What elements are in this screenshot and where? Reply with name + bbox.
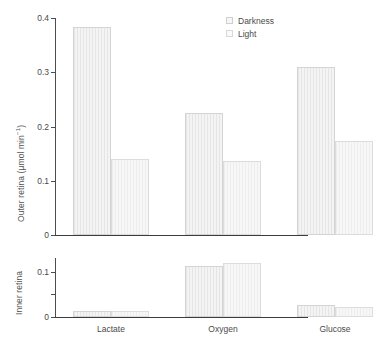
bar-outer-retina-glucose-darkness [297,67,335,235]
category-label-glucose: Glucose [319,324,350,334]
legend-label-light: Light [238,29,256,39]
inner-retina-y-axis [55,258,56,318]
inner-retina-tick-0 [51,317,55,318]
legend-item-light: Light [226,27,274,40]
category-label-oxygen: Oxygen [208,324,237,334]
bar-outer-retina-oxygen-light [223,161,261,235]
outer-retina-panel: 00.10.20.30.4 [55,18,308,236]
legend: DarknessLight [226,14,274,40]
legend-item-darkness: Darkness [226,14,274,27]
outer-retina-tick-label-1: 0.1 [37,176,49,186]
outer-retina-axis-label-tail: ) [16,125,26,128]
outer-retina-x-axis [55,235,308,236]
outer-retina-tick-0 [51,235,55,236]
bar-inner-retina-glucose-light [335,307,373,317]
bar-inner-retina-lactate-darkness [73,311,111,317]
bar-inner-retina-oxygen-light [223,263,261,317]
outer-retina-tick-label-3: 0.3 [37,67,49,77]
inner-retina-panel: 00.1 [55,258,308,318]
bar-inner-retina-oxygen-darkness [185,266,223,317]
inner-retina-plot-area: 00.1 [55,258,308,318]
outer-retina-y-axis [55,18,56,236]
outer-retina-tick-2 [51,127,55,128]
legend-label-darkness: Darkness [238,16,274,26]
outer-retina-tick-label-2: 0.2 [37,122,49,132]
inner-retina-tick-1 [51,294,55,295]
inner-retina-tick-label-0: 0 [44,312,49,322]
bar-outer-retina-oxygen-darkness [185,113,223,235]
outer-retina-plot-area: 00.10.20.30.4 [55,18,308,236]
bar-outer-retina-lactate-darkness [73,27,111,235]
bar-inner-retina-glucose-darkness [297,305,335,317]
outer-retina-tick-label-4: 0.4 [37,13,49,23]
inner-retina-tick-label-2: 0.1 [37,267,49,277]
outer-retina-axis-label-text: Outer retina (µmol min [16,135,26,222]
category-label-lactate: Lactate [97,324,125,334]
outer-retina-axis-label-exponent: −1 [14,128,21,135]
bar-outer-retina-lactate-light [111,159,149,235]
inner-retina-axis-label: Inner retina [14,271,24,315]
outer-retina-tick-label-0: 0 [44,230,49,240]
outer-retina-tick-3 [51,72,55,73]
outer-retina-tick-4 [51,18,55,19]
darkness-swatch [226,17,233,24]
inner-retina-tick-2 [51,272,55,273]
inner-retina-x-axis [55,317,308,318]
bar-inner-retina-lactate-light [111,311,149,317]
outer-retina-tick-1 [51,181,55,182]
bar-outer-retina-glucose-light [335,141,373,235]
light-swatch [226,30,233,37]
outer-retina-axis-label: Outer retina (µmol min−1) [14,125,26,222]
